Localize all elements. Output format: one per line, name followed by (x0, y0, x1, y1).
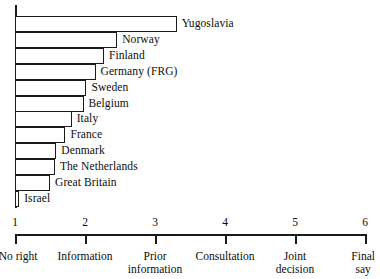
bar (15, 191, 19, 207)
bar (15, 96, 84, 112)
value-axis-tick-number: 6 (362, 217, 368, 229)
value-axis-tick-caption: Information (58, 250, 113, 263)
plot-area: YugoslaviaNorwayFinlandGermany (FRG)Swed… (0, 0, 380, 212)
horizontal-bar-chart: YugoslaviaNorwayFinlandGermany (FRG)Swed… (0, 0, 380, 279)
bar (15, 127, 65, 143)
value-axis-tick-caption: Final say (351, 250, 375, 275)
value-axis-tick-caption: No right (0, 250, 37, 263)
bar (15, 32, 117, 48)
bar-category-label: Finland (109, 50, 145, 62)
value-axis-tick-number: 4 (222, 217, 228, 229)
value-axis-tick (225, 234, 227, 244)
value-axis-line (15, 234, 365, 236)
value-axis-tick (295, 234, 297, 244)
value-axis-tick (85, 234, 87, 244)
bar (15, 80, 86, 96)
value-axis-tick (15, 234, 17, 244)
bar-category-label: The Netherlands (60, 161, 138, 173)
value-axis-tick (365, 234, 367, 244)
bar-category-label: Yugoslavia (182, 18, 234, 30)
bar (15, 16, 177, 32)
value-axis-tick-number: 1 (12, 217, 18, 229)
bar-category-label: Israel (24, 193, 50, 205)
bar (15, 64, 96, 80)
value-axis-tick-number: 3 (152, 217, 158, 229)
bar-category-label: Germany (FRG) (101, 66, 178, 78)
bar-category-label: France (70, 129, 102, 141)
value-axis-tick-number: 2 (82, 217, 88, 229)
bar-category-label: Norway (122, 34, 160, 46)
bar (15, 159, 55, 175)
value-axis-tick-caption: Consultation (196, 250, 255, 263)
bar-category-label: Sweden (91, 82, 128, 94)
value-axis: 1No right2Information3Prior information4… (0, 212, 380, 279)
bar-category-label: Belgium (89, 98, 129, 110)
value-axis-tick (155, 234, 157, 244)
bar-category-label: Italy (77, 113, 99, 125)
value-axis-tick-caption: Joint decision (276, 250, 314, 275)
bar (15, 143, 56, 159)
value-axis-tick-caption: Prior information (128, 250, 182, 275)
bar-category-label: Denmark (61, 145, 105, 157)
value-axis-tick-number: 5 (292, 217, 298, 229)
bar (15, 175, 50, 191)
bar-category-label: Great Britain (55, 177, 117, 189)
bar (15, 111, 72, 127)
bar (15, 48, 104, 64)
